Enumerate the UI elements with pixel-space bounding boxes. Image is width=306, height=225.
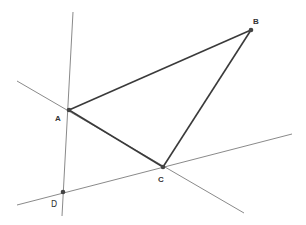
segment-ab [69, 30, 251, 110]
label-b: B [253, 17, 259, 26]
segment-bc [163, 30, 251, 167]
label-c: C [158, 175, 164, 184]
point-c [161, 165, 166, 170]
geometry-diagram: A B C D [0, 0, 306, 225]
line-through-d-c [17, 134, 292, 205]
point-a [67, 108, 72, 113]
label-a: A [55, 114, 61, 123]
point-d [61, 190, 66, 195]
label-d: D [51, 200, 57, 209]
line-through-a-d [62, 12, 73, 216]
segment-ac [69, 110, 163, 167]
point-b [249, 28, 254, 33]
